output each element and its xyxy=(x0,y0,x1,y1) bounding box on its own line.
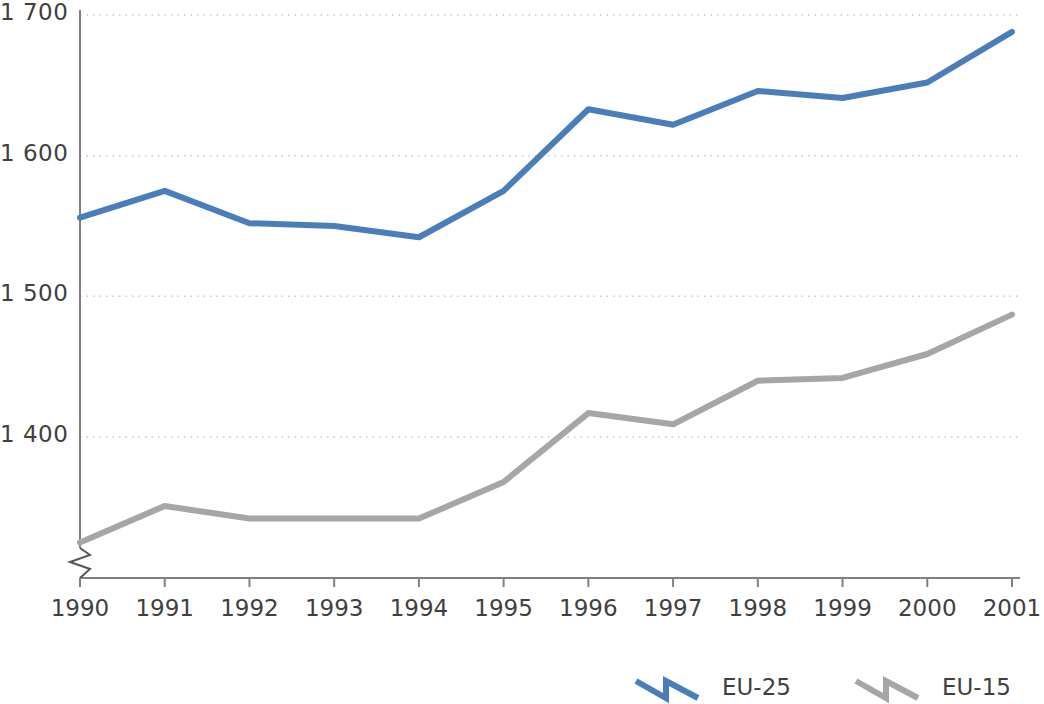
x-axis-tick-label: 1995 xyxy=(464,595,544,621)
x-axis-tick-label: 1996 xyxy=(548,595,628,621)
x-axis-tick-label: 1993 xyxy=(294,595,374,621)
x-axis-tick-label: 2001 xyxy=(972,595,1044,621)
x-axis-tick-label: 1997 xyxy=(633,595,713,621)
y-axis-tick-label: 1 400 xyxy=(0,421,66,447)
y-axis-tick-label: 1 500 xyxy=(0,280,66,306)
x-axis-ticks xyxy=(80,578,1012,587)
legend-label-eu-25: EU-25 xyxy=(722,674,791,700)
gridlines-group xyxy=(80,15,1020,437)
x-axis-tick-label: 1994 xyxy=(379,595,459,621)
legend-label-eu-15: EU-15 xyxy=(942,674,1011,700)
axes-group xyxy=(70,10,1020,587)
legend-marker-eu-15 xyxy=(856,681,918,698)
series-line-eu-15 xyxy=(80,315,1012,543)
x-axis-tick-label: 1999 xyxy=(803,595,883,621)
series-lines-group xyxy=(80,32,1012,543)
x-axis-tick-label: 1990 xyxy=(40,595,120,621)
x-axis-tick-label: 1998 xyxy=(718,595,798,621)
legend-marker-eu-25 xyxy=(636,681,698,698)
x-axis-tick-label: 2000 xyxy=(887,595,967,621)
x-axis-tick-label: 1991 xyxy=(125,595,205,621)
y-axis-tick-label: 1 600 xyxy=(0,140,66,166)
x-axis-tick-label: 1992 xyxy=(209,595,289,621)
y-axis-tick-label: 1 700 xyxy=(0,0,66,25)
series-line-eu-25 xyxy=(80,32,1012,237)
y-axis-break-symbol xyxy=(70,548,90,578)
